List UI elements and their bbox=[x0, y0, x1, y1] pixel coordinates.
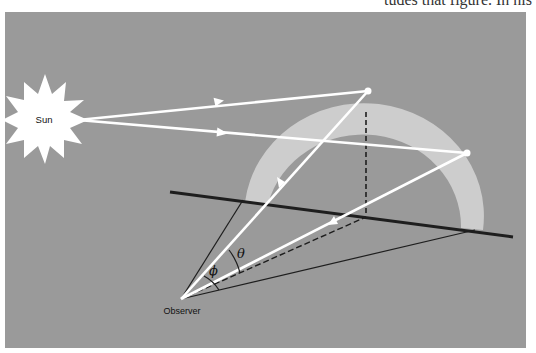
reflection-point-top bbox=[365, 88, 372, 95]
theta-label: θ bbox=[237, 246, 245, 261]
observer-label: Observer bbox=[163, 306, 200, 316]
rainbow-diagram: θ ϕ Sun Observer bbox=[0, 0, 536, 353]
phi-label: ϕ bbox=[209, 263, 218, 278]
sun-label: Sun bbox=[36, 114, 53, 125]
reflection-point-side bbox=[464, 150, 471, 157]
